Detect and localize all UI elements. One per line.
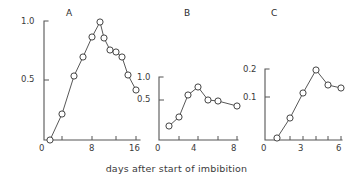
enzyme-activity-figure: enzyme activity A 1.0 0.5 0 8 16 xyxy=(0,0,353,179)
panel-c-plot xyxy=(0,0,353,160)
panel-c-markers xyxy=(274,67,344,141)
panel-c-axes xyxy=(265,69,342,140)
panel-c-series-line xyxy=(277,70,341,138)
x-axis-caption: days after start of imbibition xyxy=(0,163,353,174)
